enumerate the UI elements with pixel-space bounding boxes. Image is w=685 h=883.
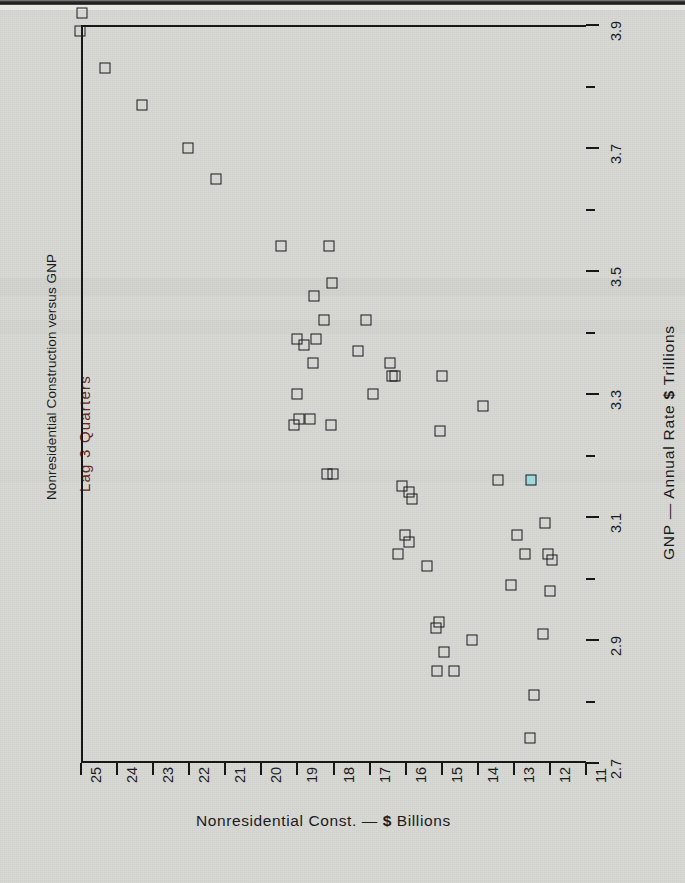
data-point — [288, 419, 299, 430]
data-point — [77, 7, 88, 18]
gnp-axis-tick-minor — [586, 209, 595, 211]
data-point — [546, 555, 557, 566]
data-point — [319, 315, 330, 326]
data-point — [392, 548, 403, 559]
const-axis-tick — [80, 763, 82, 775]
gnp-axis-tick-minor — [586, 86, 595, 88]
chart-figure: Nonresidential Construction versus GNP L… — [0, 0, 685, 883]
data-point — [324, 241, 335, 252]
data-point — [298, 339, 309, 350]
gnp-axis-tick-major — [586, 516, 599, 518]
scatter-plot-area[interactable] — [81, 25, 586, 763]
const-axis-tick-label: 19 — [304, 767, 320, 783]
data-point — [325, 419, 336, 430]
data-point — [100, 63, 111, 74]
data-point — [434, 425, 445, 436]
const-axis-tick-label: 18 — [341, 767, 357, 783]
const-axis-tick-label: 14 — [485, 767, 501, 783]
data-point — [544, 585, 555, 596]
gnp-axis-tick-major — [586, 393, 599, 395]
data-point — [292, 389, 303, 400]
gnp-axis-tick-minor — [586, 455, 595, 457]
const-axis-tick-label: 20 — [268, 767, 284, 783]
const-axis-tick-label: 22 — [196, 767, 212, 783]
data-point — [467, 635, 478, 646]
data-point-highlighted — [526, 475, 537, 486]
const-axis-tick-label: 13 — [521, 767, 537, 783]
data-point — [326, 278, 337, 289]
const-axis-tick — [585, 763, 587, 775]
data-point — [137, 99, 148, 110]
const-axis-tick-label: 15 — [449, 767, 465, 783]
chart-title: Nonresidential Construction versus GNP — [44, 254, 59, 500]
data-point — [305, 413, 316, 424]
data-point — [449, 665, 460, 676]
const-axis-tick — [116, 763, 118, 775]
gnp-axis-tick-minor — [586, 701, 595, 703]
const-axis-tick — [296, 763, 298, 775]
gnp-axis-tick-label: 3.9 — [608, 21, 624, 41]
gnp-axis-tick-label: 2.9 — [608, 636, 624, 656]
data-point — [389, 370, 400, 381]
const-axis-tick — [224, 763, 226, 775]
data-point — [421, 561, 432, 572]
gnp-axis-tick-label: 2.7 — [608, 759, 624, 779]
gnp-axis-tick-major — [586, 639, 599, 641]
data-point — [492, 475, 503, 486]
const-axis-tick — [152, 763, 154, 775]
const-axis-tick — [441, 763, 443, 775]
data-point — [360, 315, 371, 326]
const-axis-tick-label: 12 — [557, 767, 573, 783]
gnp-axis-title: GNP — Annual Rate $ Trillions — [660, 325, 678, 560]
gnp-axis-tick-major — [586, 270, 599, 272]
const-axis-tick — [188, 763, 190, 775]
data-point — [525, 733, 536, 744]
data-point — [528, 690, 539, 701]
gnp-axis-tick-major — [586, 24, 599, 26]
data-point — [438, 647, 449, 658]
data-point — [512, 530, 523, 541]
data-point — [538, 628, 549, 639]
const-axis-tick — [260, 763, 262, 775]
data-point — [307, 358, 318, 369]
data-point — [407, 493, 418, 504]
gnp-axis-tick-minor — [586, 578, 595, 580]
const-axis-tick-label: 24 — [124, 767, 140, 783]
gnp-axis-tick-label: 3.1 — [608, 513, 624, 533]
const-axis-tick — [333, 763, 335, 775]
data-point — [478, 401, 489, 412]
gnp-axis-tick-label: 3.7 — [608, 144, 624, 164]
gnp-axis-tick-label: 3.5 — [608, 267, 624, 287]
data-point — [436, 370, 447, 381]
data-point — [539, 518, 550, 529]
const-axis-tick — [477, 763, 479, 775]
const-axis-tick-label: 25 — [88, 767, 104, 783]
data-point — [505, 579, 516, 590]
data-point — [432, 665, 443, 676]
data-point — [311, 333, 322, 344]
const-axis-tick — [369, 763, 371, 775]
data-point — [75, 26, 86, 37]
data-point — [431, 622, 442, 633]
gnp-axis-tick-major — [586, 147, 599, 149]
const-axis-tick-label: 23 — [160, 767, 176, 783]
data-point — [211, 173, 222, 184]
const-axis-tick — [405, 763, 407, 775]
data-point — [520, 548, 531, 559]
gnp-axis-tick-major — [586, 762, 599, 764]
data-point — [385, 358, 396, 369]
const-axis-tick-label: 16 — [413, 767, 429, 783]
data-point — [276, 241, 287, 252]
data-point — [404, 536, 415, 547]
const-axis-tick — [513, 763, 515, 775]
nonresidential-const-axis-title: Nonresidential Const. — $ Billions — [196, 812, 451, 830]
data-point — [352, 345, 363, 356]
const-axis-tick-label: 21 — [232, 767, 248, 783]
data-point — [327, 468, 338, 479]
data-point — [183, 143, 194, 154]
const-axis-tick — [549, 763, 551, 775]
const-axis-tick-label: 17 — [377, 767, 393, 783]
gnp-axis-tick-label: 3.3 — [608, 390, 624, 410]
data-point — [308, 290, 319, 301]
data-point — [368, 389, 379, 400]
